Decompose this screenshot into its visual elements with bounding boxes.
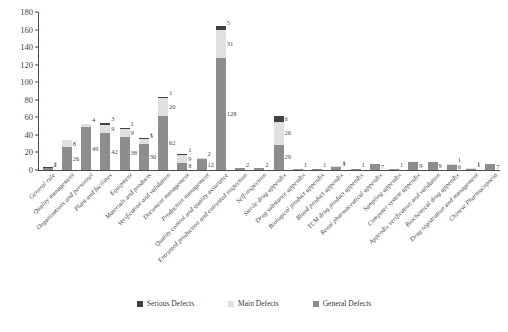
bar-segment[interactable]: 42 [100, 133, 110, 170]
bar-segment[interactable]: 49 [81, 127, 91, 170]
bar-value-label: 9 [188, 156, 191, 163]
bar-value-label: 9 [131, 129, 134, 136]
bar-value-label: 38 [131, 150, 138, 157]
bar-value-label: 1 [54, 161, 57, 168]
bar-value-label: 1 [304, 162, 307, 169]
bar-value-label: 1 [188, 147, 191, 154]
bar-value-label: 26 [285, 130, 292, 137]
bar-value-label: 2 [208, 151, 211, 158]
bar-segment[interactable]: 12 [197, 159, 207, 170]
bar-column[interactable]: 1530 [139, 138, 149, 170]
bar-series-area: 1282644939421938153012062198212531128226… [38, 12, 500, 170]
bar-segment[interactable]: 7 [370, 164, 380, 170]
legend-label: General Defects [323, 300, 372, 308]
bar-segment[interactable]: 20 [158, 98, 168, 116]
legend-swatch-icon [228, 301, 234, 307]
bar-segment[interactable]: 38 [120, 137, 130, 170]
bar-segment[interactable]: 1 [293, 169, 303, 170]
legend-swatch-icon [313, 301, 319, 307]
bar-column[interactable]: 826 [62, 140, 72, 170]
bar-value-label: 128 [227, 111, 237, 118]
bar-segment[interactable]: 2 [235, 168, 245, 170]
bar-segment[interactable]: 8 [177, 163, 187, 170]
bar-column[interactable]: 198 [177, 154, 187, 170]
bar-column[interactable]: 531128 [216, 26, 226, 170]
bar-value-label: 1 [477, 162, 480, 169]
bar-value-label: 4 [92, 117, 95, 124]
legend-item[interactable]: Serious Defects [137, 300, 194, 308]
bar-value-label: 5 [150, 133, 153, 140]
bar-value-label: 1 [150, 132, 153, 139]
bar-column[interactable]: 3942 [100, 123, 110, 170]
bar-segment[interactable]: 62 [158, 116, 168, 170]
bar-column[interactable]: 449 [81, 124, 91, 171]
bar-segment[interactable]: 9 [428, 162, 438, 170]
legend-swatch-icon [137, 301, 143, 307]
bar-value-label: 1 [400, 162, 403, 169]
bar-column[interactable]: 11 [466, 168, 476, 170]
bar-segment[interactable]: 9 [177, 155, 187, 163]
legend-item[interactable]: Main Defects [228, 300, 279, 308]
bar-value-label: 3 [111, 116, 114, 123]
bar-segment[interactable]: 26 [274, 122, 284, 145]
bar-column[interactable]: 1 [312, 169, 322, 170]
stacked-bar-chart: 020406080100120140160180 128264493942193… [0, 0, 508, 332]
bar-column[interactable]: 1 [293, 169, 303, 170]
legend-item[interactable]: General Defects [313, 300, 372, 308]
bar-value-label: 9 [439, 163, 442, 170]
bar-value-label: 42 [111, 148, 118, 155]
bar-column[interactable]: 12062 [158, 97, 168, 170]
bar-value-label: 6 [458, 164, 461, 171]
bar-segment[interactable]: 128 [216, 58, 226, 170]
bar-column[interactable]: 7 [370, 164, 380, 170]
bar-column[interactable]: 9 [408, 162, 418, 170]
bar-value-label: 1 [458, 157, 461, 164]
chart-legend: Serious DefectsMain DefectsGeneral Defec… [0, 300, 508, 308]
bar-column[interactable]: 2 [235, 168, 245, 170]
bar-column[interactable]: 9 [428, 162, 438, 170]
bar-value-label: 1 [362, 162, 365, 169]
bar-segment[interactable]: 26 [62, 147, 72, 170]
bar-value-label: 2 [246, 162, 249, 169]
bar-segment[interactable]: 7 [485, 164, 495, 170]
legend-label: Serious Defects [147, 300, 194, 308]
bar-value-label: 1 [342, 160, 345, 167]
bar-column[interactable]: 1938 [120, 128, 130, 170]
bar-value-label: 49 [92, 145, 99, 152]
bar-segment[interactable]: 9 [120, 129, 130, 137]
bar-value-label: 26 [73, 155, 80, 162]
bar-column[interactable]: 212 [197, 158, 207, 170]
bar-column[interactable]: 16 [447, 164, 457, 170]
bar-segment[interactable]: 3 [331, 167, 341, 170]
bar-column[interactable]: 12 [43, 167, 53, 170]
bar-column[interactable]: 2 [254, 168, 264, 170]
bar-value-label: 1 [169, 90, 172, 97]
bar-segment[interactable]: 2 [43, 168, 53, 170]
bar-segment[interactable]: 29 [274, 145, 284, 170]
bar-value-label: 9 [111, 126, 114, 133]
bar-column[interactable]: 62629 [274, 116, 284, 170]
bar-segment[interactable]: 9 [408, 162, 418, 170]
bar-value-label: 1 [323, 162, 326, 169]
bar-value-label: 1 [131, 121, 134, 128]
bar-segment[interactable]: 8 [62, 140, 72, 147]
bar-segment[interactable]: 9 [100, 125, 110, 133]
bar-segment[interactable]: 6 [447, 165, 457, 170]
bar-value-label: 5 [227, 20, 230, 27]
bar-value-label: 2 [54, 162, 57, 169]
bar-value-label: 9 [419, 163, 422, 170]
bar-value-label: 7 [381, 164, 384, 171]
bar-column[interactable]: 1 [389, 169, 399, 170]
bar-column[interactable]: 7 [485, 164, 495, 170]
bar-column[interactable]: 13 [331, 166, 341, 170]
bar-segment[interactable]: 1 [312, 169, 322, 170]
bar-value-label: 2 [265, 162, 268, 169]
bar-value-label: 12 [208, 161, 215, 168]
bar-segment[interactable]: 1 [466, 169, 476, 170]
bar-value-label: 7 [496, 164, 499, 171]
bar-segment[interactable]: 1 [389, 169, 399, 170]
bar-segment[interactable]: 31 [216, 30, 226, 57]
bar-segment[interactable]: 30 [139, 144, 149, 170]
bar-segment[interactable]: 2 [254, 168, 264, 170]
bar-value-label: 31 [227, 41, 234, 48]
